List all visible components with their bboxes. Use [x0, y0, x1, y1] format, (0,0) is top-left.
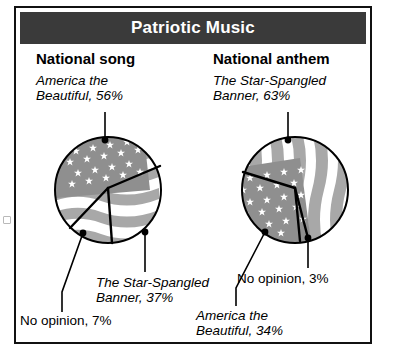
label-line-2: Beautiful, 34% [196, 324, 283, 339]
infographic-panel: Patriotic Music National song National a… [0, 0, 394, 350]
label-line-2: Banner, 37% [96, 291, 209, 306]
label-left-star-spangled-banner: The Star-Spangled Banner, 37% [96, 276, 209, 305]
label-right-no-opinion: No opinion, 3% [237, 272, 329, 287]
page-title: Patriotic Music [131, 18, 255, 38]
column-heading-national-anthem: National anthem [213, 50, 330, 67]
title-bar: Patriotic Music [20, 12, 366, 44]
label-right-america-the-beautiful: America the Beautiful, 34% [196, 309, 283, 338]
label-line-1: The Star-Spangled [213, 74, 326, 89]
label-left-america-the-beautiful: America the Beautiful, 56% [36, 74, 123, 103]
label-line-2: Banner, 63% [213, 89, 326, 104]
label-line-2: Beautiful, 56% [36, 89, 123, 104]
column-heading-national-song: National song [36, 50, 135, 67]
label-line-1: The Star-Spangled [96, 276, 209, 291]
scan-artifact [3, 216, 11, 224]
label-right-star-spangled-banner: The Star-Spangled Banner, 63% [213, 74, 326, 103]
label-line-1: America the [196, 309, 283, 324]
label-line-1: America the [36, 74, 123, 89]
label-left-no-opinion: No opinion, 7% [20, 314, 112, 329]
